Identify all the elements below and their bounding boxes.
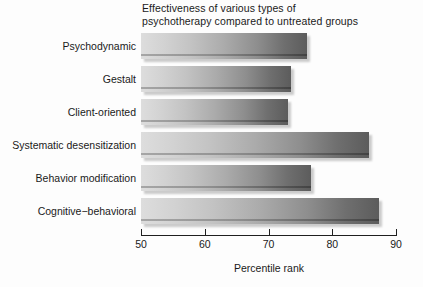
x-axis-tick-70 bbox=[269, 229, 270, 235]
category-label-client-oriented: Client-oriented bbox=[0, 99, 136, 125]
x-axis-title: Percentile rank bbox=[141, 262, 397, 274]
plot-area bbox=[141, 33, 396, 232]
category-label-behavior-modification: Behavior modification bbox=[0, 165, 136, 191]
x-axis-tick-80 bbox=[332, 229, 333, 235]
x-axis-tick-label-80: 80 bbox=[326, 238, 338, 250]
x-axis-tick-label-60: 60 bbox=[199, 238, 211, 250]
bar-psychodynamic bbox=[141, 33, 307, 59]
x-axis-tick-label-90: 90 bbox=[390, 238, 402, 250]
chart-title: Effectiveness of various types of psycho… bbox=[142, 2, 420, 28]
x-axis-tick-90 bbox=[396, 229, 397, 235]
chart-figure: Effectiveness of various types of psycho… bbox=[0, 0, 423, 287]
x-axis-tick-label-70: 70 bbox=[263, 238, 275, 250]
bar-gestalt bbox=[141, 66, 291, 92]
bar-cognitive-behavioral bbox=[141, 198, 379, 224]
category-label-systematic-desensitization: Systematic desensitization bbox=[0, 132, 136, 158]
category-label-psychodynamic: Psychodynamic bbox=[0, 33, 136, 59]
x-axis-line bbox=[141, 235, 397, 236]
category-label-gestalt: Gestalt bbox=[0, 66, 136, 92]
bar-behavior-modification bbox=[141, 165, 311, 191]
x-axis-tick-60 bbox=[205, 229, 206, 235]
x-axis-tick-50 bbox=[141, 229, 142, 235]
category-label-cognitive-behavioral: Cognitive−behavioral bbox=[0, 198, 136, 224]
x-axis-tick-label-50: 50 bbox=[135, 238, 147, 250]
category-axis-labels: Psychodynamic Gestalt Client-oriented Sy… bbox=[0, 33, 136, 232]
bar-client-oriented bbox=[141, 99, 288, 125]
bar-systematic-desensitization bbox=[141, 132, 369, 158]
